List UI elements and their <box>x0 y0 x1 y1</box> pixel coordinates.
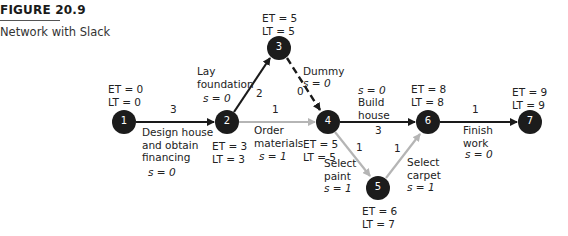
activity-5-6-duration: 1 <box>394 142 401 155</box>
activity-6-7-duration: 1 <box>472 103 479 116</box>
node-2-label: 2 <box>217 115 237 128</box>
node-3-times: ET = 5LT = 5 <box>262 12 297 37</box>
activity-4-5-duration: 1 <box>356 141 363 154</box>
activity-3-4-duration: 0 <box>297 85 304 98</box>
activity-5-6-slack: s = 1 <box>407 181 435 194</box>
activity-2-3-duration: 2 <box>256 87 263 100</box>
activity-4-5-name: Selectpaint <box>324 157 356 182</box>
activity-6-7-slack: s = 0 <box>465 148 493 161</box>
node-4-label: 4 <box>318 115 338 128</box>
activity-4-6-duration: 3 <box>375 124 382 137</box>
activity-4-6-name: Buildhouse <box>358 96 390 121</box>
node-6-label: 6 <box>418 115 438 128</box>
activity-3-4-slack: s = 0 <box>303 77 331 90</box>
node-1-label: 1 <box>114 115 134 128</box>
activity-3-4-name: Dummy <box>303 65 344 78</box>
activity-4-5-slack: s = 1 <box>324 182 352 195</box>
node-7-times: ET = 9LT = 9 <box>512 86 547 111</box>
activity-1-2-slack: s = 0 <box>148 166 176 179</box>
activity-4-6-slack: s = 0 <box>358 84 386 97</box>
node-5-label: 5 <box>368 181 388 194</box>
node-3-label: 3 <box>269 41 289 54</box>
node-5-times: ET = 6LT = 7 <box>362 205 397 230</box>
activity-2-4-slack: s = 1 <box>259 150 287 163</box>
activity-2-4-duration: 1 <box>272 103 279 116</box>
activity-2-3-slack: s = 0 <box>203 92 231 105</box>
activity-1-2-duration: 3 <box>170 103 177 116</box>
node-6-times: ET = 8LT = 8 <box>411 83 446 108</box>
activity-6-7-name: Finishwork <box>463 124 493 149</box>
activity-2-3-name: Layfoundation <box>197 65 254 90</box>
activity-5-6-name: Selectcarpet <box>407 156 441 181</box>
node-7-label: 7 <box>520 115 540 128</box>
node-2-times: ET = 3LT = 3 <box>212 140 247 165</box>
activity-1-2-name: Design houseand obtainfinancing <box>142 126 213 164</box>
node-1-times: ET = 0LT = 0 <box>108 83 143 108</box>
activity-2-4-name: Ordermaterials <box>254 124 303 149</box>
